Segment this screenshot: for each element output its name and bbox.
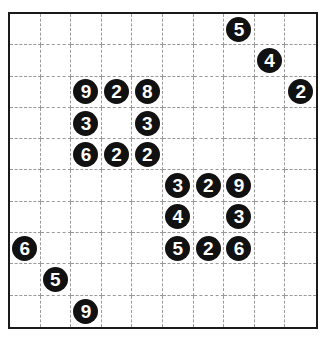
grid-cell-r6-c8[interactable] xyxy=(255,202,286,233)
grid-cell-r0-c9[interactable] xyxy=(285,14,316,45)
grid-cell-r8-c9[interactable] xyxy=(285,264,316,295)
grid-cell-r7-c7[interactable]: 6 xyxy=(224,233,255,264)
grid-cell-r9-c1[interactable] xyxy=(41,296,72,327)
grid-cell-r5-c7[interactable]: 9 xyxy=(224,170,255,201)
grid-cell-r4-c1[interactable] xyxy=(41,139,72,170)
grid-cell-r5-c6[interactable]: 2 xyxy=(194,170,225,201)
grid-cell-r2-c4[interactable]: 8 xyxy=(132,77,163,108)
grid-cell-r2-c5[interactable] xyxy=(163,77,194,108)
grid-cell-r0-c6[interactable] xyxy=(194,14,225,45)
grid-cell-r7-c0[interactable]: 6 xyxy=(10,233,41,264)
grid-cell-r6-c1[interactable] xyxy=(41,202,72,233)
grid-cell-r2-c1[interactable] xyxy=(41,77,72,108)
grid-cell-r8-c7[interactable] xyxy=(224,264,255,295)
grid-cell-r6-c0[interactable] xyxy=(10,202,41,233)
grid-cell-r0-c3[interactable] xyxy=(102,14,133,45)
grid-cell-r2-c0[interactable] xyxy=(10,77,41,108)
grid-cell-r1-c2[interactable] xyxy=(71,45,102,76)
grid-cell-r7-c3[interactable] xyxy=(102,233,133,264)
grid-cell-r1-c5[interactable] xyxy=(163,45,194,76)
grid-cell-r4-c7[interactable] xyxy=(224,139,255,170)
grid-cell-r4-c0[interactable] xyxy=(10,139,41,170)
grid-cell-r3-c9[interactable] xyxy=(285,108,316,139)
grid-cell-r9-c9[interactable] xyxy=(285,296,316,327)
grid-cell-r8-c2[interactable] xyxy=(71,264,102,295)
grid-cell-r0-c2[interactable] xyxy=(71,14,102,45)
grid-cell-r6-c2[interactable] xyxy=(71,202,102,233)
grid-cell-r3-c5[interactable] xyxy=(163,108,194,139)
grid-cell-r6-c5[interactable]: 4 xyxy=(163,202,194,233)
grid-cell-r3-c4[interactable]: 3 xyxy=(132,108,163,139)
grid-cell-r1-c8[interactable]: 4 xyxy=(255,45,286,76)
grid-cell-r4-c5[interactable] xyxy=(163,139,194,170)
grid-cell-r3-c6[interactable] xyxy=(194,108,225,139)
grid-cell-r9-c8[interactable] xyxy=(255,296,286,327)
grid-cell-r6-c3[interactable] xyxy=(102,202,133,233)
grid-cell-r5-c5[interactable]: 3 xyxy=(163,170,194,201)
grid-cell-r6-c9[interactable] xyxy=(285,202,316,233)
grid-cell-r7-c4[interactable] xyxy=(132,233,163,264)
grid-cell-r8-c1[interactable]: 5 xyxy=(41,264,72,295)
grid-cell-r5-c8[interactable] xyxy=(255,170,286,201)
grid-cell-r2-c3[interactable]: 2 xyxy=(102,77,133,108)
grid-cell-r5-c4[interactable] xyxy=(132,170,163,201)
grid-cell-r5-c3[interactable] xyxy=(102,170,133,201)
grid-cell-r9-c7[interactable] xyxy=(224,296,255,327)
grid-cell-r4-c4[interactable]: 2 xyxy=(132,139,163,170)
grid-cell-r3-c7[interactable] xyxy=(224,108,255,139)
grid-cell-r1-c0[interactable] xyxy=(10,45,41,76)
grid-cell-r6-c4[interactable] xyxy=(132,202,163,233)
grid-cell-r8-c5[interactable] xyxy=(163,264,194,295)
grid-cell-r2-c8[interactable] xyxy=(255,77,286,108)
grid-cell-r1-c6[interactable] xyxy=(194,45,225,76)
grid-cell-r8-c8[interactable] xyxy=(255,264,286,295)
grid-cell-r9-c2[interactable]: 9 xyxy=(71,296,102,327)
grid-cell-r2-c7[interactable] xyxy=(224,77,255,108)
grid-cell-r1-c3[interactable] xyxy=(102,45,133,76)
grid-cell-r0-c1[interactable] xyxy=(41,14,72,45)
grid-cell-r0-c0[interactable] xyxy=(10,14,41,45)
grid-cell-r0-c5[interactable] xyxy=(163,14,194,45)
grid-cell-r7-c1[interactable] xyxy=(41,233,72,264)
grid-cell-r0-c4[interactable] xyxy=(132,14,163,45)
grid-cell-r7-c9[interactable] xyxy=(285,233,316,264)
grid-cell-r2-c9[interactable]: 2 xyxy=(285,77,316,108)
grid-cell-r3-c3[interactable] xyxy=(102,108,133,139)
grid-cell-r5-c2[interactable] xyxy=(71,170,102,201)
grid-cell-r8-c3[interactable] xyxy=(102,264,133,295)
grid-cell-r5-c9[interactable] xyxy=(285,170,316,201)
grid-cell-r4-c8[interactable] xyxy=(255,139,286,170)
grid-cell-r4-c9[interactable] xyxy=(285,139,316,170)
grid-cell-r9-c6[interactable] xyxy=(194,296,225,327)
grid-cell-r7-c5[interactable]: 5 xyxy=(163,233,194,264)
grid-cell-r3-c8[interactable] xyxy=(255,108,286,139)
grid-cell-r9-c5[interactable] xyxy=(163,296,194,327)
grid-cell-r3-c0[interactable] xyxy=(10,108,41,139)
grid-cell-r4-c3[interactable]: 2 xyxy=(102,139,133,170)
grid-cell-r4-c2[interactable]: 6 xyxy=(71,139,102,170)
grid-cell-r4-c6[interactable] xyxy=(194,139,225,170)
grid-cell-r9-c0[interactable] xyxy=(10,296,41,327)
grid-cell-r8-c4[interactable] xyxy=(132,264,163,295)
grid-cell-r0-c7[interactable]: 5 xyxy=(224,14,255,45)
grid-cell-r5-c1[interactable] xyxy=(41,170,72,201)
grid-cell-r1-c4[interactable] xyxy=(132,45,163,76)
grid-cell-r7-c6[interactable]: 2 xyxy=(194,233,225,264)
grid-cell-r2-c2[interactable]: 9 xyxy=(71,77,102,108)
grid-cell-r7-c2[interactable] xyxy=(71,233,102,264)
grid-cell-r3-c1[interactable] xyxy=(41,108,72,139)
grid-cell-r1-c7[interactable] xyxy=(224,45,255,76)
grid-cell-r5-c0[interactable] xyxy=(10,170,41,201)
grid-cell-r8-c6[interactable] xyxy=(194,264,225,295)
grid-cell-r6-c6[interactable] xyxy=(194,202,225,233)
grid-cell-r9-c4[interactable] xyxy=(132,296,163,327)
grid-cell-r9-c3[interactable] xyxy=(102,296,133,327)
grid-cell-r1-c1[interactable] xyxy=(41,45,72,76)
grid-cell-r8-c0[interactable] xyxy=(10,264,41,295)
grid-cell-r1-c9[interactable] xyxy=(285,45,316,76)
grid-cell-r0-c8[interactable] xyxy=(255,14,286,45)
grid-cell-r2-c6[interactable] xyxy=(194,77,225,108)
grid-cell-r7-c8[interactable] xyxy=(255,233,286,264)
grid-cell-r6-c7[interactable]: 3 xyxy=(224,202,255,233)
grid-cell-r3-c2[interactable]: 3 xyxy=(71,108,102,139)
